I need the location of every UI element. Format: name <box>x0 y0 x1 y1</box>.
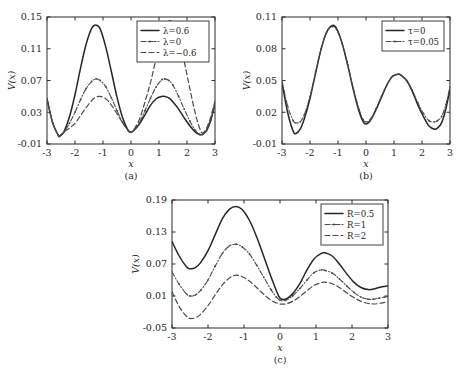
series-marker <box>373 298 375 300</box>
y-axis-label: V(x) <box>241 70 252 90</box>
x-tick-label: 3 <box>447 147 453 158</box>
plot-a: -3-2-10123-0.010.030.070.110.15xV(x)(a)λ… <box>0 0 234 190</box>
legend-label: λ=0.6 <box>163 26 189 36</box>
series-marker <box>263 276 265 278</box>
series-marker <box>105 86 107 88</box>
series-marker <box>178 283 180 285</box>
series-marker <box>332 26 334 28</box>
series-marker <box>315 71 317 73</box>
series-marker <box>235 243 237 245</box>
legend-label: R=2 <box>347 231 366 241</box>
series-marker <box>195 294 197 296</box>
y-tick-label: 0.13 <box>146 226 167 237</box>
series-marker <box>241 246 243 248</box>
series-marker <box>384 296 386 298</box>
series-marker <box>270 289 272 291</box>
series-marker <box>381 95 383 97</box>
series-marker <box>287 105 289 107</box>
x-tick-label: 3 <box>212 147 218 158</box>
series-marker <box>445 104 447 106</box>
series-marker <box>91 80 93 82</box>
y-tick-label: 0.05 <box>256 75 277 86</box>
y-tick-label: 0.02 <box>256 107 277 118</box>
series-marker <box>222 252 224 254</box>
series-marker <box>281 80 283 82</box>
series-marker <box>358 108 360 110</box>
series-marker <box>437 120 439 122</box>
series-marker <box>164 78 166 80</box>
legend-sample-marker <box>333 223 335 225</box>
series-marker <box>365 121 367 123</box>
x-tick-label: 2 <box>419 147 425 158</box>
series-marker <box>279 299 281 301</box>
series-marker <box>324 270 326 272</box>
x-axis-label: x <box>128 158 134 169</box>
x-tick-label: 0 <box>277 331 283 342</box>
y-axis-label: V(x) <box>130 254 141 274</box>
legend: τ=0τ=0.05 <box>382 21 444 51</box>
series-marker <box>321 269 323 271</box>
figure-container: -3-2-10123-0.010.030.070.110.15xV(x)(a)λ… <box>0 0 468 375</box>
series-marker <box>285 299 287 301</box>
series-marker <box>336 29 338 31</box>
y-tick-label: 0.07 <box>146 258 167 269</box>
series-marker <box>397 73 399 75</box>
plot-c: -3-2-10123-0.050.010.070.130.19xV(x)(c)R… <box>117 186 397 375</box>
series-marker <box>341 43 343 45</box>
series-marker <box>362 119 364 121</box>
series-line <box>172 244 388 301</box>
x-tick-label: -2 <box>203 331 212 342</box>
y-tick-label: -0.05 <box>143 322 167 333</box>
y-axis-label: V(x) <box>6 70 17 90</box>
x-tick-label: -2 <box>70 147 79 158</box>
series-marker <box>304 113 306 115</box>
series-marker <box>150 97 152 99</box>
series-marker <box>74 111 76 113</box>
series-marker <box>189 295 191 297</box>
panel-a: -3-2-10123-0.010.030.070.110.15xV(x)(a)λ… <box>0 0 234 190</box>
y-tick-label: 0.03 <box>21 107 42 118</box>
x-tick-label: -3 <box>167 331 176 342</box>
x-tick-label: 0 <box>128 147 134 158</box>
series-marker <box>406 80 408 82</box>
series-marker <box>417 102 419 104</box>
legend-label: τ=0 <box>408 26 425 36</box>
series-marker <box>295 122 297 124</box>
x-tick-label: -1 <box>333 147 342 158</box>
x-tick-label: 1 <box>156 147 162 158</box>
series-marker <box>207 279 209 281</box>
series-marker <box>423 112 425 114</box>
series-marker <box>299 288 301 290</box>
legend: R=0.5R=1R=2 <box>321 204 383 245</box>
panel-label: (c) <box>274 354 287 365</box>
series-marker <box>306 279 308 281</box>
series-marker <box>449 86 451 88</box>
legend-label: R=0.5 <box>347 209 374 219</box>
series-marker <box>202 134 204 136</box>
x-tick-label: 0 <box>363 147 369 158</box>
series-marker <box>400 74 402 76</box>
series-marker <box>326 31 328 33</box>
legend-label: λ=−0.6 <box>163 48 197 58</box>
legend: λ=0.6λ=0λ=−0.6 <box>137 21 209 62</box>
series-marker <box>80 99 82 101</box>
series-marker <box>367 298 369 300</box>
x-tick-label: 3 <box>385 331 391 342</box>
y-tick-label: -0.01 <box>18 138 42 149</box>
series-marker <box>161 79 163 81</box>
y-tick-label: -0.01 <box>253 138 277 149</box>
x-tick-label: 1 <box>391 147 397 158</box>
series-marker <box>360 296 362 298</box>
legend-label: λ=0 <box>163 37 181 47</box>
y-tick-label: 0.15 <box>21 11 42 22</box>
series-marker <box>199 134 201 136</box>
y-tick-label: 0.07 <box>21 75 42 86</box>
x-tick-label: -2 <box>305 147 314 158</box>
x-tick-label: 2 <box>184 147 190 158</box>
panel-c: -3-2-10123-0.050.010.070.130.19xV(x)(c)R… <box>117 186 397 375</box>
legend-label: τ=0.05 <box>408 37 439 47</box>
series-marker <box>171 271 173 273</box>
x-tick-label: 1 <box>313 331 319 342</box>
series-marker <box>200 289 202 291</box>
series-marker <box>85 88 87 90</box>
